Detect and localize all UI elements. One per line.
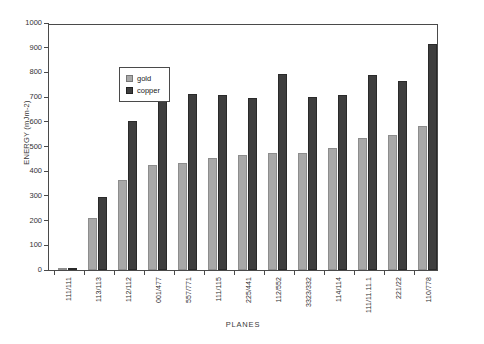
legend-label-copper: copper — [137, 86, 160, 95]
bar-gold — [418, 126, 427, 270]
y-tick-label: 200 — [29, 216, 42, 226]
bar-copper — [368, 75, 377, 270]
x-tick-mark — [204, 270, 205, 275]
bar-gold — [148, 165, 157, 270]
bar-gold — [298, 153, 307, 270]
bar-gold — [58, 268, 67, 270]
bar-group — [238, 25, 257, 270]
x-tick-mark — [174, 270, 175, 275]
x-tick-mark — [234, 270, 235, 275]
y-tick-label: 700 — [29, 92, 42, 102]
bar-group — [268, 25, 287, 270]
x-tick-label: 114/114 — [335, 277, 342, 302]
bar-group — [118, 25, 137, 270]
bar-gold — [238, 155, 247, 270]
x-tick-mark — [144, 270, 145, 275]
x-tick-label: 110/778 — [425, 277, 432, 302]
x-tick-label: 557/771 — [185, 277, 192, 303]
bar-gold — [268, 153, 277, 270]
bar-group — [298, 25, 317, 270]
legend-item-copper: copper — [126, 85, 160, 96]
bar-gold — [118, 180, 127, 270]
bar-group — [208, 25, 227, 270]
bar-copper — [428, 44, 437, 270]
bar-gold — [358, 138, 367, 270]
bar-copper — [218, 95, 227, 270]
x-tick-label: 112/112 — [125, 277, 132, 302]
x-tick-mark — [114, 270, 115, 275]
x-tick-mark — [54, 270, 55, 275]
bar-copper — [128, 121, 137, 270]
bar-gold — [208, 158, 217, 270]
x-axis-title: PLANES — [48, 320, 438, 329]
bar-copper — [68, 268, 77, 270]
bar-group — [388, 25, 407, 270]
bar-group — [58, 25, 77, 270]
x-tick-mark — [84, 270, 85, 275]
y-tick-label: 1000 — [25, 18, 42, 28]
x-tick-mark — [414, 270, 415, 275]
y-tick-label: 500 — [29, 142, 42, 152]
bar-gold — [328, 148, 337, 270]
x-tick-mark — [324, 270, 325, 275]
y-tick-label: 0 — [38, 265, 42, 275]
bar-gold — [178, 163, 187, 270]
bar-group — [358, 25, 377, 270]
x-tick-label: 111/115 — [215, 277, 222, 301]
x-tick-label: 113/113 — [95, 277, 102, 302]
x-tick-label: 001/477 — [155, 277, 162, 303]
y-tick-label: 100 — [29, 240, 42, 250]
legend-swatch-copper-icon — [126, 87, 133, 94]
y-tick-mark — [44, 23, 49, 24]
y-tick-label: 900 — [29, 43, 42, 53]
y-axis-title: ENERGY (mJm-2) — [22, 63, 31, 203]
y-tick-label: 800 — [29, 67, 42, 77]
y-tick-label: 600 — [29, 117, 42, 127]
bar-copper — [98, 197, 107, 270]
legend: gold copper — [119, 67, 170, 102]
bar-gold — [88, 218, 97, 270]
bar-copper — [398, 81, 407, 270]
x-tick-label: 225/441 — [245, 277, 252, 303]
y-tick-label: 300 — [29, 191, 42, 201]
bar-group — [148, 25, 167, 270]
bar-copper — [338, 95, 347, 270]
bar-copper — [308, 97, 317, 270]
x-tick-label: 111/111 — [65, 277, 72, 301]
legend-label-gold: gold — [137, 74, 151, 83]
y-tick-label: 400 — [29, 166, 42, 176]
bar-gold — [388, 135, 397, 270]
x-tick-label: 3323/332 — [305, 277, 312, 307]
bar-copper — [188, 94, 197, 270]
x-tick-mark — [354, 270, 355, 275]
bar-group — [178, 25, 197, 270]
bar-copper — [248, 98, 257, 270]
bar-copper — [278, 74, 287, 270]
x-tick-mark — [384, 270, 385, 275]
x-tick-mark — [264, 270, 265, 275]
bar-copper — [158, 94, 167, 270]
plot-area: 01002003004005006007008009001000 gold co… — [48, 24, 438, 271]
bar-group — [328, 25, 347, 270]
x-tick-mark — [294, 270, 295, 275]
bar-series-container — [49, 25, 437, 270]
bar-chart: ENERGY (mJm-2) 0100200300400500600700800… — [0, 0, 484, 344]
x-tick-label: 221/22 — [395, 277, 402, 299]
legend-item-gold: gold — [126, 73, 160, 84]
legend-swatch-gold-icon — [126, 75, 133, 82]
x-tick-label: 112/552 — [275, 277, 282, 302]
bar-group — [418, 25, 437, 270]
bar-group — [88, 25, 107, 270]
x-tick-label: 111/11.11.1 — [365, 277, 372, 313]
